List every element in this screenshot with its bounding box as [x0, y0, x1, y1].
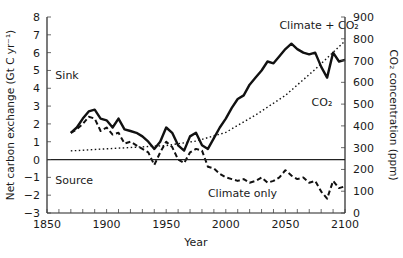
y-tick-label: 4 [33, 82, 40, 95]
y-right-tick-label: 600 [353, 76, 374, 89]
chart-svg: −3−2−10123456780100200300400500600700800… [0, 0, 403, 258]
y-tick-label: 5 [33, 64, 40, 77]
annotation-label: Climate + CO₂ [279, 19, 358, 32]
carbon-exchange-chart: −3−2−10123456780100200300400500600700800… [0, 0, 403, 258]
y-tick-label: −1 [24, 171, 40, 184]
y-axis-left-label: Net carbon exchange (Gt C yr⁻¹) [4, 30, 16, 200]
y-tick-label: 6 [33, 47, 40, 60]
y-right-tick-label: 200 [353, 163, 374, 176]
x-axis-label: Year [183, 236, 208, 249]
y-right-tick-label: 400 [353, 120, 374, 133]
plot-area [71, 41, 345, 199]
x-tick-label: 1950 [152, 218, 180, 231]
y-right-tick-label: 800 [353, 33, 374, 46]
y-tick-label: 1 [33, 136, 40, 149]
annotation-label: Sink [55, 69, 79, 82]
y-tick-label: 0 [33, 154, 40, 167]
annotations: SinkSourceClimate + CO₂CO₂Climate only [55, 19, 358, 199]
annotation-label: CO₂ [312, 96, 333, 109]
y-right-tick-label: 700 [353, 55, 374, 68]
y-tick-label: −2 [24, 189, 40, 202]
y-tick-label: 8 [33, 11, 40, 24]
annotation-label: Source [55, 174, 93, 187]
y-right-tick-label: 500 [353, 98, 374, 111]
annotation-label: Climate only [208, 187, 278, 200]
y-tick-label: 3 [33, 100, 40, 113]
y-right-tick-label: 300 [353, 142, 374, 155]
x-tick-label: 2100 [331, 218, 359, 231]
axis-labels: Year Net carbon exchange (Gt C yr⁻¹) CO₂… [4, 30, 400, 249]
axes: −3−2−10123456780100200300400500600700800… [24, 11, 374, 231]
x-tick-label: 2050 [271, 218, 299, 231]
x-tick-label: 2000 [212, 218, 240, 231]
x-tick-label: 1900 [93, 218, 121, 231]
y-right-tick-label: 100 [353, 185, 374, 198]
y-axis-right-label: CO₂ concentration (ppm) [388, 50, 400, 181]
y-tick-label: 2 [33, 118, 40, 131]
x-tick-label: 1850 [33, 218, 61, 231]
y-tick-label: 7 [33, 29, 40, 42]
